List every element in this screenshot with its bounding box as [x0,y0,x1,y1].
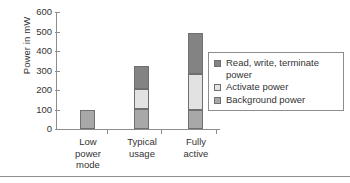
y-tick-label: 100 [36,104,52,115]
legend-swatch-icon [214,84,221,91]
y-tick-label: 300 [36,65,52,76]
bar-segment-background-power [134,109,149,130]
power-stacked-bar-chart: Power in mW 0 100 200 300 400 500 [0,0,350,183]
bar-segment-background-power [188,110,203,130]
x-axis-label-fully-active: Fully active [158,136,234,159]
bar-segment-read-write-terminate-power [134,66,149,89]
y-tick-mark [55,32,60,33]
x-axis-label-line: mode [50,159,126,171]
legend-item-read-write-terminate-power: Read, write, terminate power [214,57,339,80]
bar-segment-read-write-terminate-power [188,33,203,75]
y-tick-mark [55,129,60,130]
y-axis-title: Power in mW [21,0,32,106]
bar-typical-usage [134,66,149,129]
legend-swatch-icon [214,60,221,67]
y-tick-label: 200 [36,84,52,95]
x-tick-1 [107,129,108,134]
y-tick-mark [55,51,60,52]
y-tick-label: 400 [36,45,52,56]
y-tick-mark [55,110,60,111]
bar-segment-activate-power [134,89,149,109]
x-axis-label-line: Fully [158,136,234,148]
bar-segment-activate-power [188,74,203,109]
y-tick-label: 500 [36,26,52,37]
y-tick-mark [55,90,60,91]
chart-legend: Read, write, terminate power Activate po… [208,52,344,111]
y-tick-mark [55,71,60,72]
legend-label: Read, write, terminate power [226,57,339,80]
x-tick-3 [216,129,217,134]
x-axis-label-line: active [158,148,234,160]
y-tick-label: 0 [47,123,52,134]
bar-low-power-mode [80,110,95,130]
legend-item-background-power: Background power [214,94,339,106]
x-tick-2 [161,129,162,134]
bar-fully-active [188,33,203,130]
bar-segment-background-power [80,110,95,130]
legend-label: Background power [226,94,305,106]
legend-item-activate-power: Activate power [214,81,339,93]
legend-label: Activate power [226,81,288,93]
y-tick-label: 600 [36,6,52,17]
page-divider-rule [0,176,350,177]
plot-area: 0 100 200 300 400 500 600 [56,12,220,129]
y-tick-mark [55,12,60,13]
x-axis-line [56,129,220,130]
legend-swatch-icon [214,97,221,104]
